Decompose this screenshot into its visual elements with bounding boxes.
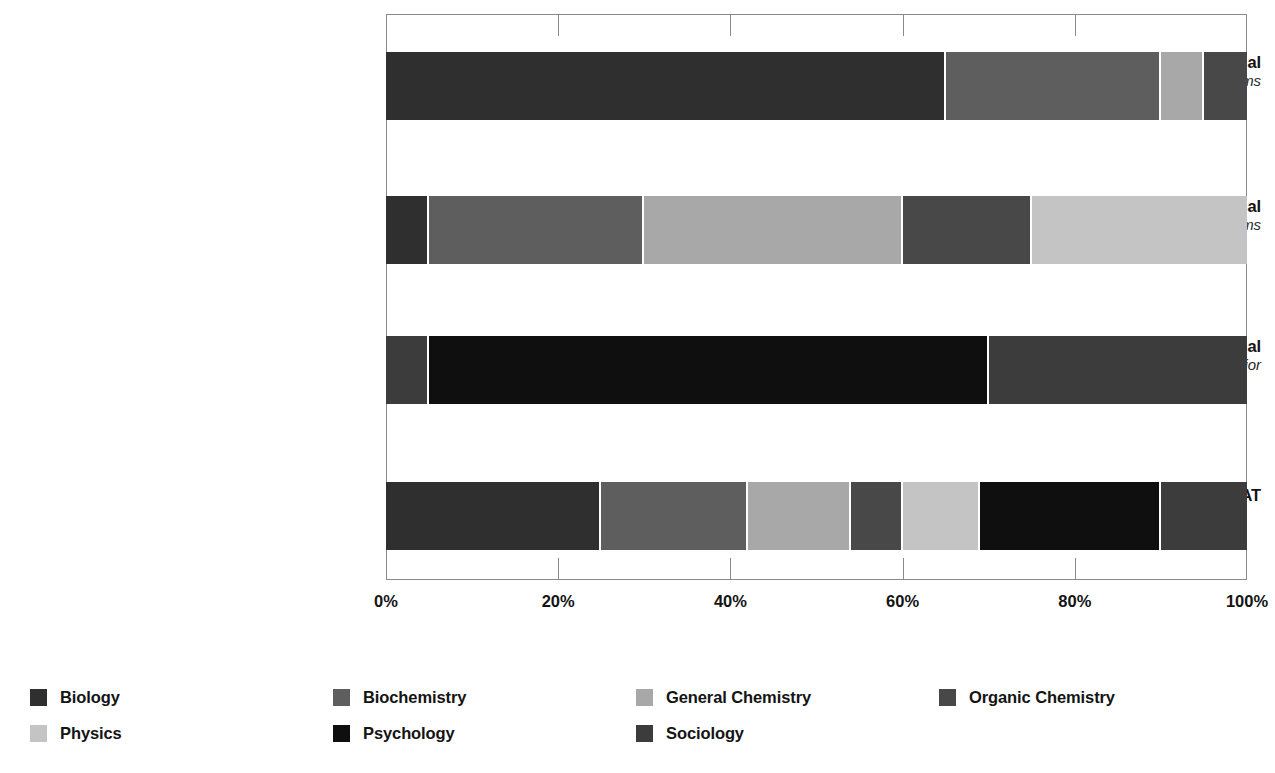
legend-label: Psychology <box>363 724 455 743</box>
legend-label: General Chemistry <box>666 688 811 707</box>
tick-mark-bottom <box>730 558 731 580</box>
tick-mark-top <box>730 14 731 36</box>
legend-label: Biochemistry <box>363 688 466 707</box>
bar-segment <box>386 336 429 404</box>
legend-label: Organic Chemistry <box>969 688 1115 707</box>
legend-item[interactable]: Sociology <box>636 724 939 743</box>
bar-segment <box>386 482 601 550</box>
legend: BiologyBiochemistryGeneral ChemistryOrga… <box>30 688 1245 760</box>
x-tick-label: 40% <box>714 592 747 611</box>
bar-row <box>386 336 1247 404</box>
legend-item[interactable]: Physics <box>30 724 333 743</box>
tick-mark-top <box>558 14 559 36</box>
bar-segment <box>946 52 1161 120</box>
bar-segment <box>903 196 1032 264</box>
legend-swatch-icon <box>30 689 47 706</box>
bar-segment <box>429 336 989 404</box>
bar-segment <box>1204 52 1247 120</box>
bar-segment <box>601 482 747 550</box>
bar-segment <box>851 482 903 550</box>
legend-item[interactable]: Organic Chemistry <box>939 688 1242 707</box>
legend-item[interactable]: Biology <box>30 688 333 707</box>
x-tick-label: 100% <box>1226 592 1268 611</box>
bar-row <box>386 196 1247 264</box>
legend-item[interactable]: General Chemistry <box>636 688 939 707</box>
bar-segment <box>1161 52 1204 120</box>
legend-label: Physics <box>60 724 122 743</box>
x-tick-label: 20% <box>542 592 575 611</box>
tick-mark-bottom <box>558 558 559 580</box>
bar-segment <box>748 482 851 550</box>
bar-row <box>386 482 1247 550</box>
tick-mark-top <box>903 14 904 36</box>
x-tick-label: 0% <box>374 592 398 611</box>
stacked-bar-chart: Biological and Biochemical Foundations o… <box>0 0 1275 773</box>
legend-item[interactable]: Psychology <box>333 724 636 743</box>
legend-swatch-icon <box>636 689 653 706</box>
legend-swatch-icon <box>30 725 47 742</box>
bar-segment <box>989 336 1247 404</box>
tick-mark-top <box>1075 14 1076 36</box>
legend-item[interactable]: Biochemistry <box>333 688 636 707</box>
legend-row-1: BiologyBiochemistryGeneral ChemistryOrga… <box>30 688 1245 707</box>
bar-segment <box>386 196 429 264</box>
axis-bottom-line <box>386 579 1247 580</box>
x-tick-label: 80% <box>1058 592 1091 611</box>
plot-area <box>386 14 1247 580</box>
axis-top-line <box>386 14 1247 15</box>
legend-swatch-icon <box>333 689 350 706</box>
tick-mark-bottom <box>903 558 904 580</box>
legend-swatch-icon <box>636 725 653 742</box>
bar-row <box>386 52 1247 120</box>
legend-label: Biology <box>60 688 120 707</box>
legend-label: Sociology <box>666 724 744 743</box>
bar-segment <box>1032 196 1247 264</box>
legend-row-2: PhysicsPsychologySociology <box>30 724 1245 743</box>
bar-segment <box>386 52 946 120</box>
x-tick-label: 60% <box>886 592 919 611</box>
bar-segment <box>980 482 1161 550</box>
tick-mark-bottom <box>1075 558 1076 580</box>
legend-swatch-icon <box>939 689 956 706</box>
bar-segment <box>644 196 902 264</box>
bar-segment <box>429 196 644 264</box>
legend-swatch-icon <box>333 725 350 742</box>
bar-segment <box>903 482 980 550</box>
bar-segment <box>1161 482 1247 550</box>
